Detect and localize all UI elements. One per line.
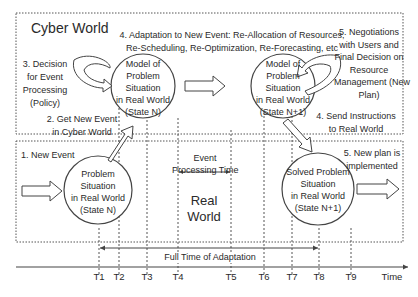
- full-time-of-adaptation-label: Full Time of Adaptation: [160, 252, 260, 263]
- step5-negotiations-label: 5. Negotiations with Users and Final Dec…: [334, 26, 404, 101]
- tick-t3: T3: [137, 271, 157, 282]
- step4-send-instructions-label: 4. Send Instructions to Real World: [314, 110, 398, 135]
- step3-decision-label: 3. Decision for Event Processing (Policy…: [20, 58, 70, 110]
- tick-t5: T5: [221, 271, 241, 282]
- step2-get-event-label: 2. Get New Event in Cyber World: [42, 113, 122, 139]
- tick-t4: T4: [168, 271, 188, 282]
- time-axis-label: Time: [377, 271, 407, 282]
- tick-t7: T7: [282, 271, 302, 282]
- model-state-n1-label: Model of Problem Situation in Real World…: [251, 58, 315, 118]
- tick-t6: T6: [254, 271, 274, 282]
- solved-state-n1-label: Solved Problem Situation in Real World (…: [284, 166, 352, 214]
- problem-state-n-label: Problem Situation in Real World (State N…: [66, 168, 130, 216]
- transition-arrow-icon: [185, 76, 225, 96]
- tick-t8: T8: [309, 271, 329, 282]
- event-processing-time-label: Event Processing Time: [172, 152, 238, 176]
- model-state-n-label: Model of Problem Situation in Real World…: [111, 58, 175, 118]
- cyber-world-title: Cyber World: [31, 20, 109, 37]
- tick-t9: T9: [341, 271, 361, 282]
- real-world-title: Real World: [182, 193, 226, 225]
- step5-new-plan-label: 5. New plan is implemented: [340, 147, 404, 172]
- adaptation-diagram: Cyber World 3. Decision for Event Proces…: [0, 0, 418, 297]
- output-arrow-icon: [357, 179, 399, 199]
- step4-adaptation-header: 4. Adaptation to New Event: Re-Allocatio…: [112, 29, 352, 55]
- tick-t1: T1: [89, 271, 109, 282]
- decision-loop-arrow-icon: [73, 56, 112, 92]
- new-event-arrow-icon: [22, 181, 62, 201]
- tick-t2: T2: [109, 271, 129, 282]
- step1-new-event-label: 1. New Event: [21, 150, 75, 161]
- send-instructions-arrow-icon: [283, 119, 312, 152]
